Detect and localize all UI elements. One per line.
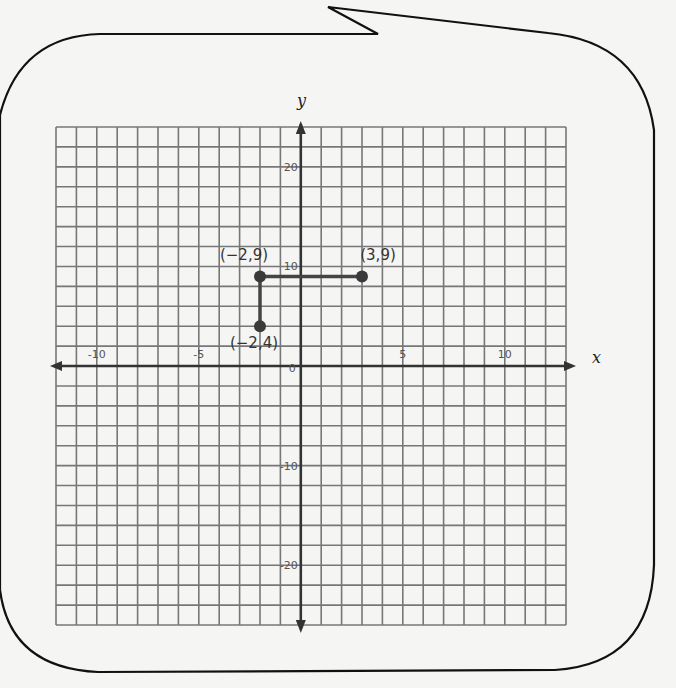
x-tick-label: -10 — [88, 348, 106, 361]
speech-bubble-outline — [0, 7, 654, 672]
figure: -10-505102010-10-20 (−2,9)(3,9)(−2,4) x … — [0, 0, 676, 688]
x-axis-arrow-right-icon — [564, 361, 576, 371]
data-point-label: (−2,4) — [230, 334, 278, 352]
y-axis-arrow-down-icon — [296, 620, 306, 633]
x-axis-label: x — [592, 348, 601, 367]
data-point-marker — [254, 270, 266, 282]
origin-label: 0 — [289, 362, 296, 375]
coordinate-plane-chart: -10-505102010-10-20 (−2,9)(3,9)(−2,4) x … — [0, 0, 676, 688]
y-tick-label: -20 — [280, 559, 298, 572]
y-tick-label: 20 — [284, 161, 298, 174]
y-tick-label: -10 — [280, 460, 298, 473]
x-tick-label: -5 — [193, 348, 204, 361]
data-point-marker — [356, 270, 368, 282]
y-axis-label: y — [296, 91, 307, 110]
x-tick-label: 5 — [399, 348, 406, 361]
segments — [260, 276, 362, 326]
data-point-label: (−2,9) — [220, 246, 268, 264]
y-tick-label: 10 — [284, 260, 298, 273]
grid — [56, 127, 566, 625]
data-point-marker — [254, 320, 266, 332]
data-points: (−2,9)(3,9)(−2,4) — [220, 246, 396, 352]
x-tick-label: 10 — [498, 348, 512, 361]
data-point-label: (3,9) — [360, 246, 396, 264]
axes — [50, 121, 576, 633]
